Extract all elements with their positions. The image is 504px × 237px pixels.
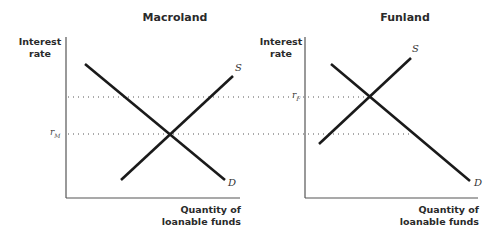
- x-label-line2: loanable funds: [150, 216, 241, 228]
- macroland-rate-label: rM: [50, 127, 60, 139]
- funland-supply-curve: [319, 58, 411, 144]
- y-label-line2: rate: [18, 48, 62, 60]
- y-label-line2: rate: [259, 48, 303, 60]
- y-label-line1: Interest: [18, 36, 62, 48]
- y-label-line1: Interest: [259, 36, 303, 48]
- x-label-line2: loanable funds: [388, 216, 479, 228]
- x-label-line1: Quantity of: [388, 204, 479, 216]
- funland-x-axis-label: Quantity of loanable funds: [388, 204, 479, 228]
- funland-rate-label: rF: [292, 90, 300, 102]
- macroland-y-axis-label: Interest rate: [18, 36, 62, 60]
- macroland-supply-curve: [121, 76, 233, 180]
- macroland-x-axis-label: Quantity of loanable funds: [150, 204, 241, 228]
- macroland-demand-label: D: [228, 177, 236, 188]
- macroland-title: Macroland: [110, 11, 240, 24]
- rate-subscript: F: [296, 95, 300, 102]
- loanable-funds-diagram: [0, 0, 504, 237]
- funland-supply-label: S: [412, 43, 419, 54]
- funland-demand-curve: [331, 64, 470, 181]
- rate-subscript: M: [54, 132, 60, 139]
- funland-y-axis-label: Interest rate: [259, 36, 303, 60]
- funland-title: Funland: [360, 11, 450, 24]
- x-label-line1: Quantity of: [150, 204, 241, 216]
- funland-demand-label: D: [474, 177, 482, 188]
- macroland-supply-label: S: [235, 62, 242, 73]
- macroland-demand-curve: [85, 64, 225, 180]
